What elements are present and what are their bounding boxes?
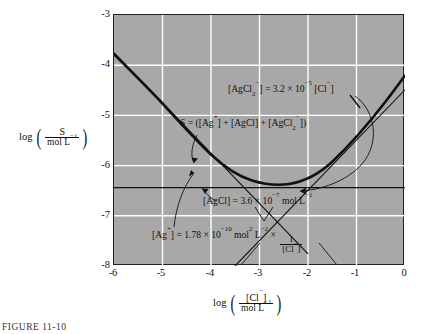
- paren-close: ): [277, 292, 282, 315]
- x-axis-fraction: [Cl−] mol L−1: [239, 293, 273, 314]
- paren-close: ): [83, 126, 88, 149]
- x-axis-ticks: -6 -5 -4 -3 -2 -1 0: [0, 268, 421, 284]
- y-tick-label: -6: [86, 160, 110, 170]
- pointer-ag-arrowhead: [189, 170, 194, 177]
- y-axis-numerator: S: [57, 127, 67, 138]
- x-axis-label: log ( [Cl−] mol L−1 ): [188, 292, 308, 315]
- figure-container: -3 -4 -5 -6 -7 -8 -6 -5 -4 -3 -2 -1 0 lo…: [0, 0, 421, 334]
- x-tick-label: 0: [391, 268, 417, 278]
- paren-open: (: [231, 292, 236, 315]
- annotation-ag-plus: [Ag+] = 1.78 × 10−10 mol2 L−2 × 1 [Cl−]: [152, 230, 302, 255]
- figure-caption: FIGURE 11-10: [2, 322, 67, 332]
- pointer-agcl-arrowhead: [202, 189, 209, 195]
- x-tick-label: -6: [100, 268, 126, 278]
- pointer-ag-to-line: [174, 173, 194, 227]
- y-tick-label: -4: [86, 59, 110, 69]
- y-axis-fraction: S mol L−1: [45, 127, 79, 148]
- x-tick-label: -3: [245, 268, 271, 278]
- y-tick-label: -7: [86, 210, 110, 220]
- annotation-agcl-neutral: [AgCl] = 3.6 × 10−7 mol L−1: [203, 196, 313, 207]
- x-tick-label: -2: [294, 268, 320, 278]
- x-tick-label: -1: [342, 268, 368, 278]
- x-axis-log-operator: log: [213, 298, 226, 309]
- y-tick-label: -3: [86, 9, 110, 19]
- x-tick-label: -4: [197, 268, 223, 278]
- y-axis-denominator: mol L−1: [45, 137, 79, 148]
- annotation-total-solubility: S = ([Ag+] + [AgCl] + [AgCl2−]): [180, 118, 306, 129]
- y-axis-label: log ( S mol L−1 ): [4, 126, 104, 149]
- y-axis-log-operator: log: [19, 132, 32, 143]
- v-marker-agcl2-top: [350, 95, 360, 108]
- plot-area: [113, 14, 404, 265]
- x-axis-denominator: mol L−1: [239, 303, 273, 314]
- annotation-agcl2-complex: [AgCl2−] = 3.2 × 10−5 [Cl−]: [228, 84, 334, 95]
- paren-open: (: [37, 126, 42, 149]
- x-tick-label: -5: [148, 268, 174, 278]
- annotation-ag-plus-denominator: [Cl−]: [280, 244, 302, 254]
- annotation-ag-plus-fraction: 1 [Cl−]: [280, 235, 302, 255]
- y-tick-label: -5: [86, 110, 110, 120]
